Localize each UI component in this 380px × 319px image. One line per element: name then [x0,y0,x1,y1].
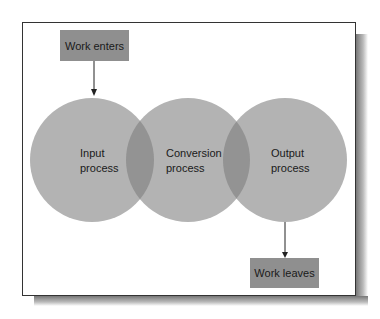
work-leaves-label: Work leaves [254,267,315,279]
output-process-label-2: process [271,162,310,174]
conversion-process-label-1: Conversion [166,147,222,159]
work-enters-label: Work enters [65,40,125,52]
input-process-label-2: process [80,162,119,174]
process-diagram: Work enters Input process Conversion pro… [0,0,380,319]
output-process-label-1: Output [271,147,304,159]
conversion-process-label-2: process [166,162,205,174]
arrow-leaves-head [282,252,288,258]
input-process-label-1: Input [80,147,104,159]
arrow-enters-head [91,89,97,96]
